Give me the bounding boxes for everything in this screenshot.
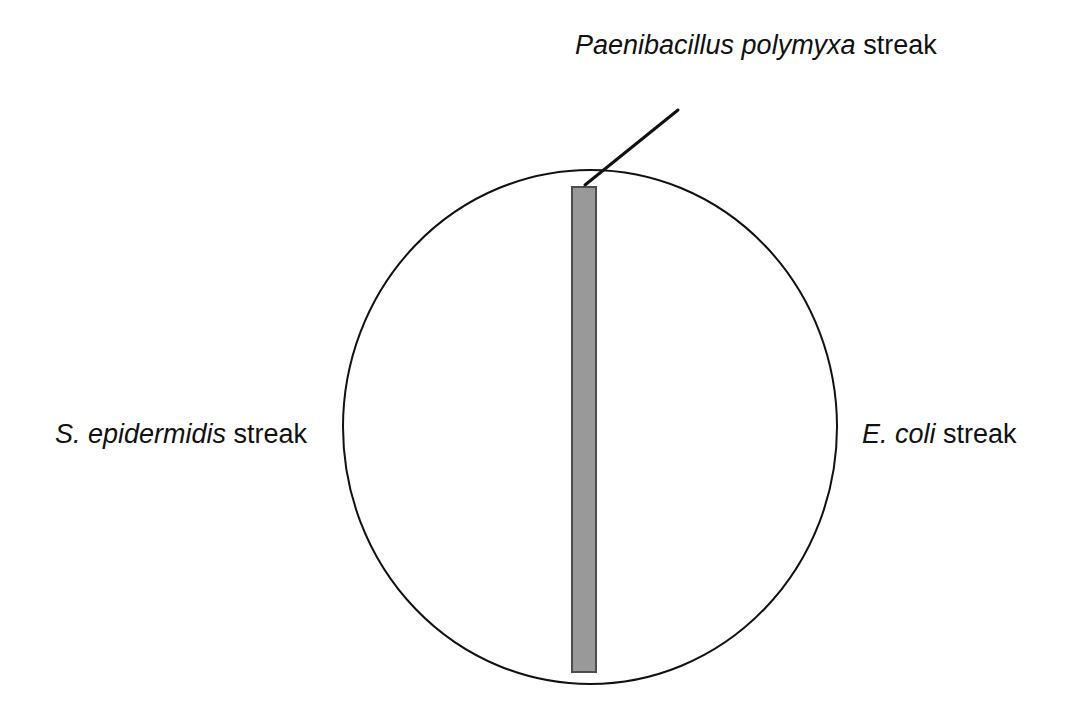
label-paenibacillus-polymyxa-streak: Paenibacillus polymyxa streak [575,29,937,61]
diagram-canvas [0,0,1080,717]
species-name-left: S. epidermidis [55,419,226,449]
species-name-top: Paenibacillus polymyxa [575,30,856,60]
label-suffix-top: streak [856,30,937,60]
label-s-epidermidis-streak: S. epidermidis streak [55,418,307,450]
label-suffix-left: streak [226,419,307,449]
figure-root: Paenibacillus polymyxa streak S. epiderm… [0,0,1080,717]
central-vertical-streak [572,187,596,672]
label-suffix-right: streak [936,419,1017,449]
label-e-coli-streak: E. coli streak [862,418,1017,450]
species-name-right: E. coli [862,419,936,449]
